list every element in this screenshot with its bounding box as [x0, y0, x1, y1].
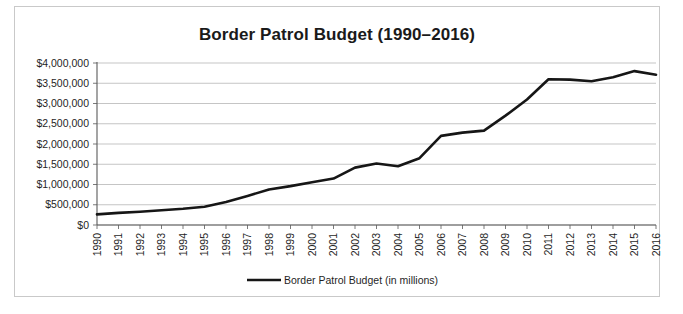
x-axis-tick-label: 1990: [91, 233, 103, 257]
data-series-line: [97, 71, 656, 214]
x-axis-tick-label: 2016: [650, 233, 661, 257]
x-axis-tick-label: 2015: [628, 233, 640, 257]
x-axis-ticks: [97, 225, 656, 229]
y-axis-tick-label: $3,000,000: [36, 97, 89, 109]
x-axis-tick-label: 1996: [220, 233, 232, 257]
y-axis-tick-label: $2,000,000: [36, 138, 89, 150]
y-axis-labels: $4,000,000$3,500,000$3,000,000$2,500,000…: [36, 57, 89, 231]
y-axis-ticks: [93, 63, 97, 225]
x-axis-tick-label: 1997: [241, 233, 253, 257]
y-axis-tick-label: $3,500,000: [36, 77, 89, 89]
x-axis-tick-label: 2008: [478, 233, 490, 257]
y-axis-tick-label: $4,000,000: [36, 57, 89, 69]
x-axis-labels: 1990199119921993199419951996199719981999…: [91, 233, 661, 257]
x-axis-tick-label: 1998: [263, 233, 275, 257]
x-axis-tick-label: 2005: [413, 233, 425, 257]
y-axis-tick-label: $500,000: [45, 198, 89, 210]
x-axis-tick-label: 2010: [521, 233, 533, 257]
x-axis-tick-label: 2000: [306, 233, 318, 257]
x-axis-tick-label: 2007: [456, 233, 468, 257]
x-axis-tick-label: 2004: [392, 233, 404, 257]
x-axis-tick-label: 1992: [134, 233, 146, 257]
x-axis-tick-label: 1994: [177, 233, 189, 257]
x-axis-tick-label: 2009: [499, 233, 511, 257]
x-axis-tick-label: 1993: [155, 233, 167, 257]
x-axis-tick-label: 2003: [370, 233, 382, 257]
chart-frame: Border Patrol Budget (1990–2016) $4,000,…: [14, 6, 660, 297]
x-axis-tick-label: 2002: [349, 233, 361, 257]
y-axis-tick-label: $1,000,000: [36, 178, 89, 190]
x-axis-tick-label: 2014: [607, 233, 619, 257]
x-axis-tick-label: 1991: [112, 233, 124, 257]
x-axis-tick-label: 2013: [585, 233, 597, 257]
x-axis-tick-label: 1999: [284, 233, 296, 257]
x-axis-tick-label: 2012: [564, 233, 576, 257]
y-axis-tick-label: $2,500,000: [36, 117, 89, 129]
y-axis-tick-label: $0: [77, 219, 89, 231]
x-axis-tick-label: 1995: [198, 233, 210, 257]
x-axis-tick-label: 2011: [542, 233, 554, 256]
x-axis-tick-label: 2001: [327, 233, 339, 257]
gridlines-group: [97, 63, 656, 225]
y-axis-tick-label: $1,500,000: [36, 158, 89, 170]
line-chart-plot: $4,000,000$3,500,000$3,000,000$2,500,000…: [15, 7, 661, 298]
x-axis-tick-label: 2006: [435, 233, 447, 257]
legend-label: Border Patrol Budget (in millions): [284, 274, 438, 286]
